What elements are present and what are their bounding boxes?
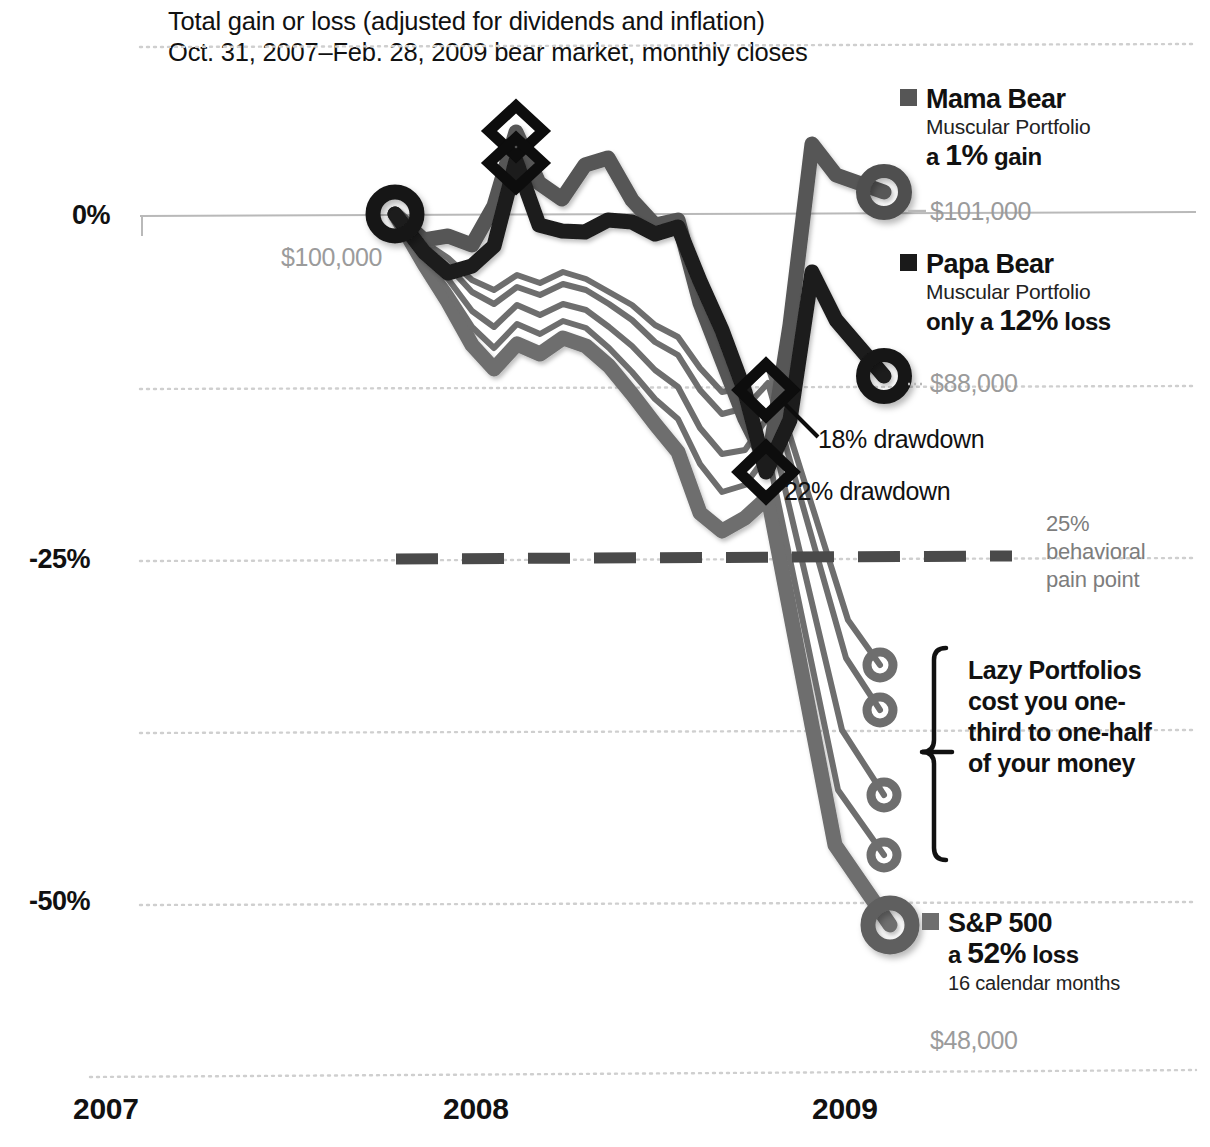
start-value-label: $100,000 bbox=[281, 243, 382, 272]
pain-point-annotation: 25% behavioral pain point bbox=[1046, 510, 1146, 594]
legend-sp500[interactable]: S&P 500 a 52% loss 16 calendar months bbox=[922, 908, 1120, 996]
legend-papa-bear[interactable]: Papa Bear Muscular Portfolio only a 12% … bbox=[900, 249, 1111, 337]
pain-point-line2: behavioral bbox=[1046, 538, 1146, 566]
pain-point-line1: 25% bbox=[1046, 510, 1146, 538]
y-axis-label-50: -50% bbox=[0, 886, 90, 917]
legend-papa-bear-name: Papa Bear bbox=[926, 249, 1054, 279]
legend-papa-bear-sub: Muscular Portfolio bbox=[926, 279, 1111, 305]
legend-papa-bear-title: Papa Bear bbox=[900, 249, 1111, 279]
legend-mama-bear-sub: Muscular Portfolio bbox=[926, 114, 1090, 140]
chart-figure: Total gain or loss (adjusted for dividen… bbox=[0, 0, 1210, 1147]
legend-sp500-title: S&P 500 bbox=[922, 908, 1120, 938]
legend-mama-bear-title: Mama Bear bbox=[900, 84, 1090, 114]
annotation-22-drawdown: 22% drawdown bbox=[784, 477, 950, 506]
legend-sp500-stat-big: 52% bbox=[967, 936, 1026, 969]
legend-mama-stat-big: 1% bbox=[945, 138, 988, 171]
legend-mama-stat-post: gain bbox=[988, 143, 1042, 170]
lazy-portfolio-annotation: Lazy Portfolios cost you one-third to on… bbox=[968, 655, 1178, 779]
x-axis-label-2009: 2009 bbox=[812, 1092, 878, 1126]
legend-papa-bear-stat: only a 12% loss bbox=[926, 305, 1111, 337]
papa-end-value-label: $88,000 bbox=[930, 369, 1018, 398]
legend-mama-bear[interactable]: Mama Bear Muscular Portfolio a 1% gain bbox=[900, 84, 1090, 172]
legend-sp500-stat: a 52% loss bbox=[948, 938, 1120, 970]
legend-sp500-stat-pre: a bbox=[948, 941, 967, 968]
x-axis-label-2007: 2007 bbox=[73, 1092, 139, 1126]
legend-mama-bear-name: Mama Bear bbox=[926, 84, 1066, 114]
lazy-portfolio-bracket bbox=[922, 648, 952, 860]
y-axis-label-25: -25% bbox=[0, 544, 90, 575]
legend-mama-stat-pre: a bbox=[926, 143, 945, 170]
legend-swatch-mama-icon bbox=[900, 89, 917, 106]
legend-sp500-note: 16 calendar months bbox=[948, 970, 1120, 996]
legend-swatch-papa-icon bbox=[900, 254, 917, 271]
pain-point-line3: pain point bbox=[1046, 566, 1146, 594]
x-axis-label-2008: 2008 bbox=[443, 1092, 509, 1126]
annotation-18-drawdown: 18% drawdown bbox=[818, 425, 984, 454]
mama-end-value-label: $101,000 bbox=[930, 197, 1031, 226]
legend-papa-stat-pre: only a bbox=[926, 308, 999, 335]
legend-papa-stat-big: 12% bbox=[999, 303, 1058, 336]
legend-sp500-name: S&P 500 bbox=[948, 908, 1052, 938]
y-axis-label-0: 0% bbox=[20, 200, 110, 231]
legend-mama-bear-stat: a 1% gain bbox=[926, 140, 1090, 172]
legend-swatch-sp500-icon bbox=[922, 913, 939, 930]
legend-papa-stat-post: loss bbox=[1058, 308, 1111, 335]
legend-sp500-stat-post: loss bbox=[1026, 941, 1079, 968]
sp500-end-value-label: $48,000 bbox=[930, 1026, 1018, 1055]
